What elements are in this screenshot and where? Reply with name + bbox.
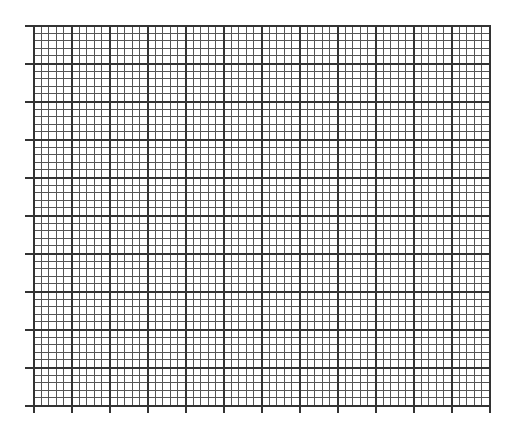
grid-canvas [0,0,514,439]
